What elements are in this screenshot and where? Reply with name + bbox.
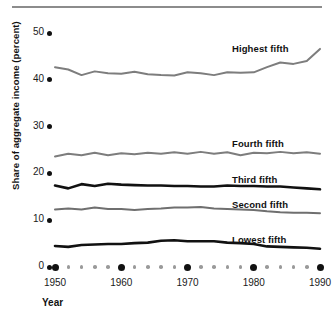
series-label-highest-fifth: Highest fifth (232, 43, 289, 54)
series-label-lowest-fifth: Lowest fifth (232, 234, 287, 245)
series-label-third-fifth: Third fifth (232, 174, 277, 185)
series-line (55, 184, 320, 190)
series-label-fourth-fifth: Fourth fifth (232, 138, 284, 149)
series-line (55, 152, 320, 157)
series-label-second-fifth: Second fifth (232, 199, 288, 210)
income-share-line-chart: Share of aggregate income (percent) 0102… (0, 0, 333, 321)
